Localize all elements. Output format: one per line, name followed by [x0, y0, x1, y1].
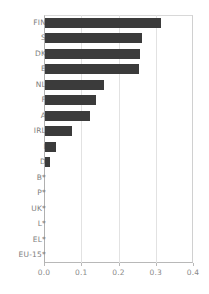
- x-tick-mark: [119, 263, 120, 266]
- gridline: [156, 15, 157, 263]
- bar-chart: 0.00.10.20.30.4 FINSDKENLFAIRLIDB*P*UK*L…: [0, 0, 209, 294]
- bar: [45, 142, 56, 152]
- bar: [45, 111, 90, 121]
- bar: [45, 18, 161, 28]
- bar: [45, 49, 140, 59]
- bar: [45, 64, 139, 74]
- bar: [45, 95, 96, 105]
- bar: [45, 80, 104, 90]
- category-label: P*: [37, 188, 46, 197]
- x-tick-label: 0.1: [66, 268, 96, 277]
- x-tick-label: 0.3: [141, 268, 171, 277]
- x-tick-mark: [81, 263, 82, 266]
- category-label: L*: [38, 219, 46, 228]
- category-label: EU-15*: [19, 250, 46, 259]
- x-tick-mark: [44, 263, 45, 266]
- x-tick-label: 0.2: [104, 268, 134, 277]
- category-label: UK*: [31, 204, 46, 213]
- bar: [45, 126, 72, 136]
- bar: [45, 33, 142, 43]
- x-tick-label: 0.0: [29, 268, 59, 277]
- category-label: B*: [37, 173, 46, 182]
- bar: [45, 157, 50, 167]
- x-tick-mark: [156, 263, 157, 266]
- category-label: EL*: [33, 235, 46, 244]
- x-tick-label: 0.4: [178, 268, 208, 277]
- x-tick-mark: [193, 263, 194, 266]
